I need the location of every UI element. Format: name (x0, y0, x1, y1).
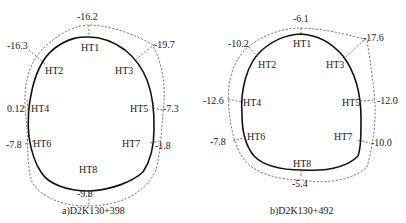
ht7-label-b: HT7 (334, 131, 352, 142)
ht6-value-b: -7.8 (210, 136, 226, 147)
tunnel-deformation-diagram: HT1 HT2 HT3 HT4 HT5 HT6 HT7 HT8 -16.2 -1… (0, 0, 406, 223)
ht8-value-b: -5.4 (292, 178, 308, 189)
ht8-value-a: -9.8 (77, 188, 93, 199)
ht2-value-b: -10.2 (228, 38, 249, 49)
ht6-label-a: HT6 (33, 138, 51, 149)
ht3-label-a: HT3 (115, 65, 133, 76)
ht6-label-b: HT6 (247, 131, 265, 142)
ht2-value-a: -16.3 (7, 40, 28, 51)
ht3-label-b: HT3 (326, 59, 344, 70)
ht6-value-a: -7.8 (6, 139, 22, 150)
figure-a: HT1 HT2 HT3 HT4 HT5 HT6 HT7 HT8 -16.2 -1… (6, 11, 179, 217)
ht2-label-a: HT2 (45, 65, 63, 76)
ht5-value-b: -12.0 (377, 95, 398, 106)
ht4-label-b: HT4 (243, 97, 261, 108)
ht4-value-a: 0.12 (7, 103, 25, 114)
caption-b: b)D2K130+492 (270, 205, 333, 217)
ht1-value-a: -16.2 (77, 11, 98, 22)
ht8-label-b: HT8 (293, 158, 311, 169)
caption-a: a)D2K130+398 (62, 205, 125, 217)
ht4-value-b: -12.6 (203, 95, 224, 106)
ht5-label-a: HT5 (130, 103, 148, 114)
ht1-label-a: HT1 (81, 42, 99, 53)
figure-b: HT1 HT2 HT3 HT4 HT5 HT6 HT7 HT8 -6.1 -10… (203, 13, 398, 217)
ht1-value-b: -6.1 (293, 13, 309, 24)
ht2-label-b: HT2 (258, 59, 276, 70)
ht5-label-b: HT5 (342, 97, 360, 108)
ht7-label-a: HT7 (122, 138, 140, 149)
ht7-value-b: -10.0 (371, 137, 392, 148)
ht3-value-b: -17.6 (363, 32, 384, 43)
ht1-label-b: HT1 (293, 38, 311, 49)
ht4-label-a: HT4 (31, 103, 49, 114)
ht7-value-a: -1.8 (155, 140, 171, 151)
ht3-value-a: -19.7 (154, 39, 175, 50)
ht8-label-a: HT8 (79, 164, 97, 175)
ht5-value-a: -7.3 (163, 103, 179, 114)
